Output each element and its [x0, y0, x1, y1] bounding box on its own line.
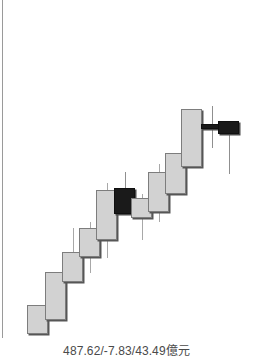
quote-summary-label: 487.62/-7.83/43.49億元	[63, 341, 190, 358]
candlestick-chart[interactable]	[0, 0, 253, 338]
candlestick-body-up	[181, 109, 202, 167]
chart-footer: 487.62/-7.83/43.49億元	[0, 338, 253, 361]
candlestick-body-down	[218, 121, 239, 134]
